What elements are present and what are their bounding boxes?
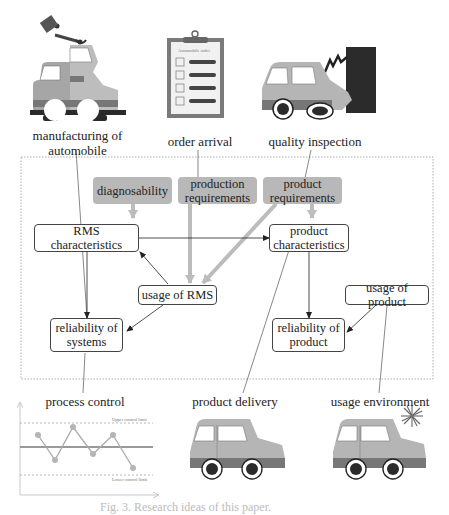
product-requirements-line1: product [283,177,321,191]
label-quality-inspection: quality inspection [260,134,370,149]
clipboard-order-icon [167,31,224,118]
reliability-of-systems-line2: systems [67,335,107,349]
reliability-of-systems-node: reliability of systems [50,318,123,352]
lower-control-limit-label: Lower control limit [112,477,147,482]
production-requirements-line2: requirements [185,191,250,205]
rms-characteristics-line1: RMS [73,224,99,238]
arrow-usage-product-to-rel-product [347,305,376,332]
usage-of-rms-node: usage of RMS [138,285,217,305]
leader-usage-environment [379,306,387,393]
production-requirements-line1: production [190,177,244,191]
label-manufacturing: manufacturing of automobile [20,128,135,158]
product-requirements-line2: requirements [270,191,335,205]
leader-process-control [83,353,85,393]
label-usage-environment: usage environment [330,394,430,409]
production-requirements-box: production requirements [178,177,257,204]
rms-characteristics-node: RMS characteristics [34,224,139,252]
rms-characteristics-line2: characteristics [51,238,122,252]
reliability-of-systems-line1: reliability of [55,321,117,335]
reliability-of-product-node: reliability of product [272,318,345,352]
product-characteristics-node: product characteristics [269,224,349,252]
upper-control-limit-label: Upper control limit [112,417,147,422]
product-requirements-box: product requirements [263,177,342,204]
diagnosability-label: diagnosability [97,184,168,198]
delivery-car-icon [190,419,285,479]
leader-quality-inspection [305,150,311,178]
figure-caption: Fig. 3. Research ideas of this paper. [100,500,271,515]
arrow-usage-rms-to-rms [140,252,168,284]
crashed-car-icon [262,47,376,119]
usage-of-product-node: usage of product [345,285,429,305]
arrow-usage-rms-to-rel-systems [127,305,163,331]
diagnosability-box: diagnosability [93,177,172,204]
arrow-productreq-to-usage-rms [203,204,276,283]
reliability-of-product-line1: reliability of [277,321,339,335]
label-manufacturing-line1: manufacturing of [20,128,135,143]
usage-environment-car-icon [333,419,426,479]
label-order-arrival: order arrival [160,134,240,149]
manufacturing-car-icon [30,15,126,121]
label-process-control: process control [40,394,130,409]
label-product-delivery: product delivery [185,394,285,409]
usage-of-product-label: usage of product [346,281,428,309]
label-manufacturing-line2: automobile [20,143,135,158]
product-characteristics-line1: product [290,224,328,238]
product-characteristics-line2: characteristics [273,238,344,252]
reliability-of-product-line2: product [289,335,327,349]
clipboard-title: Automobile order [178,48,210,53]
usage-of-rms-label: usage of RMS [142,288,214,302]
